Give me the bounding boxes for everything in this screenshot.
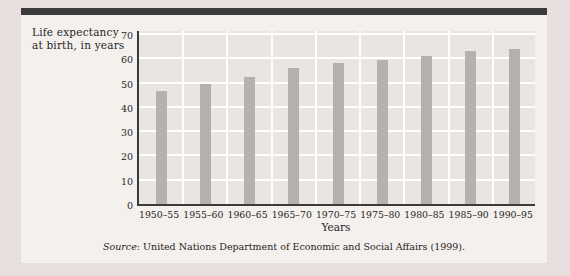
x-axis-title: Years [137,221,535,233]
figure-panel: Life expectancy at birth, in years 01020… [21,8,547,263]
x-tick-label-1960–65: 1960–65 [226,209,270,220]
x-tick-label-1955–60: 1955–60 [181,209,225,220]
x-tick-label-1975–80: 1975–80 [358,209,402,220]
x-tick-label-1985–90: 1985–90 [447,209,491,220]
source-caption-label: Source [103,241,137,252]
x-tick-label-1990–95: 1990–95 [491,209,535,220]
x-tick-label-1950–55: 1950–55 [137,209,181,220]
page: Life expectancy at birth, in years 01020… [0,0,570,276]
x-tick-label-1970–75: 1970–75 [314,209,358,220]
source-caption-text: : United Nations Department of Economic … [137,241,465,252]
source-caption: Source: United Nations Department of Eco… [21,241,547,252]
x-tick-label-1965–70: 1965–70 [270,209,314,220]
x-tick-label-1980–85: 1980–85 [402,209,446,220]
